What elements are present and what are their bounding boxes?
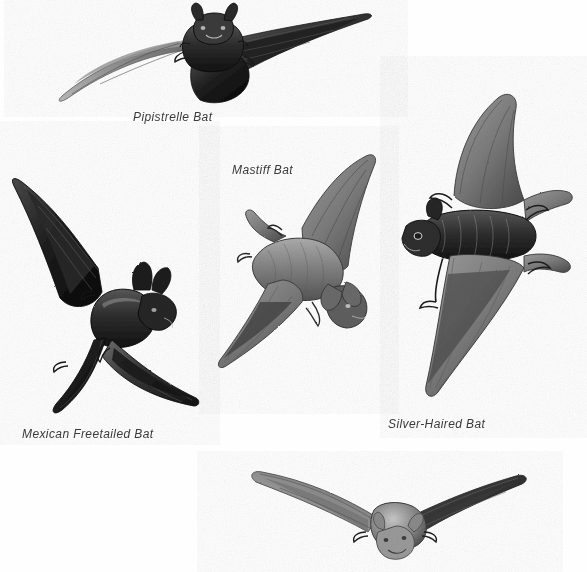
- figure-mastiff-bat: [216, 150, 382, 390]
- pipistrelle-right-ear: [224, 3, 238, 21]
- pipistrelle-left-ear: [192, 3, 204, 20]
- mexican-left-ear: [132, 262, 152, 290]
- bottom-bat-drawing: [228, 462, 532, 566]
- bottom-left-eye: [384, 538, 389, 542]
- bottom-head: [376, 526, 414, 559]
- mastiff-bat-drawing: [216, 150, 382, 390]
- mastiff-left-wing-nub: [246, 210, 286, 242]
- pipistrelle-left-eye: [201, 26, 206, 30]
- bottom-right-eye: [402, 536, 407, 540]
- silver-foot: [420, 301, 438, 308]
- caption-mastiff-bat: Mastiff Bat: [232, 164, 293, 176]
- pipistrelle-left-wing: [59, 42, 188, 101]
- mexican-foot-left: [54, 362, 68, 372]
- mastiff-tail: [306, 302, 320, 326]
- mexican-right-ear: [152, 268, 171, 294]
- mexican-freetailed-bat-drawing: [2, 148, 200, 418]
- caption-pipistrelle-bat: Pipistrelle Bat: [133, 111, 212, 123]
- mexican-eye: [151, 308, 156, 312]
- silver-eye: [414, 233, 422, 240]
- figure-silver-haired-bat: [398, 88, 578, 406]
- bottom-left-foot: [354, 532, 368, 542]
- figure-pipistrelle-bat: [38, 2, 374, 106]
- pipistrelle-right-wing-shade: [234, 18, 360, 66]
- mexican-grain: [2, 148, 200, 418]
- silver-ear: [426, 198, 442, 220]
- mastiff-eye: [345, 304, 350, 308]
- silver-haired-bat-drawing: [398, 88, 578, 406]
- mexican-lower-wing-left: [53, 338, 106, 413]
- pipistrelle-right-eye: [221, 26, 226, 30]
- silver-lower-wing-shade: [428, 270, 510, 384]
- figure-bottom-bat: [228, 462, 532, 566]
- bat-illustration-plate: Pipistrelle Bat Mastiff Bat Mexican Free…: [0, 0, 587, 572]
- figure-mexican-freetailed-bat: [2, 148, 200, 418]
- mexican-head: [138, 293, 176, 330]
- pipistrelle-bat-drawing: [38, 2, 374, 106]
- mastiff-thumb-claw: [238, 253, 252, 262]
- caption-mexican-freetailed-bat: Mexican Freetailed Bat: [22, 428, 154, 440]
- caption-silver-haired-bat: Silver-Haired Bat: [388, 418, 485, 430]
